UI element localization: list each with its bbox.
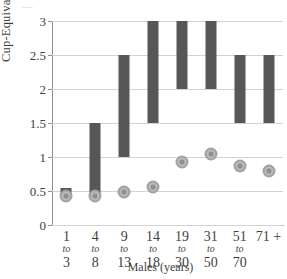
x-tick-connector: to xyxy=(204,244,218,255)
x-tick-connector: to xyxy=(233,244,247,255)
data-point-marker xyxy=(175,155,188,168)
x-tick-start: 31 xyxy=(204,229,218,244)
y-tick-mark xyxy=(48,123,52,124)
y-tick-mark xyxy=(48,157,52,158)
range-bar xyxy=(90,123,101,198)
x-tick-connector: to xyxy=(91,244,99,255)
plot-area: 00.511.522.53 xyxy=(52,21,283,225)
gridline xyxy=(52,123,283,124)
x-tick-start: 71 + xyxy=(256,229,281,244)
x-tick-connector: to xyxy=(146,244,160,255)
x-tick-start: 19 xyxy=(175,229,189,244)
range-bar xyxy=(205,21,216,89)
range-bar xyxy=(119,55,130,157)
gridline xyxy=(52,191,283,192)
data-point-marker xyxy=(233,159,246,172)
x-axis-label: Males (years) xyxy=(0,260,287,275)
data-point-marker xyxy=(118,186,131,199)
range-bar xyxy=(176,21,187,89)
data-point-marker xyxy=(262,164,275,177)
y-tick-mark xyxy=(48,191,52,192)
data-point-marker xyxy=(60,190,73,203)
x-tick-start: 9 xyxy=(117,229,131,244)
x-tick-start: 51 xyxy=(233,229,247,244)
data-point-marker xyxy=(89,190,102,203)
x-axis-label-text: Males (years) xyxy=(94,260,194,274)
y-axis-label: Cup-Equivalents xyxy=(0,0,14,62)
x-tick-connector: to xyxy=(175,244,189,255)
gridline xyxy=(52,21,283,22)
range-bar xyxy=(263,55,274,123)
gridline xyxy=(52,157,283,158)
x-tick-start: 14 xyxy=(146,229,160,244)
range-bar xyxy=(148,21,159,123)
range-bar xyxy=(234,55,245,123)
y-tick-mark xyxy=(48,55,52,56)
gridline xyxy=(52,55,283,56)
data-point-marker xyxy=(147,180,160,193)
data-point-marker xyxy=(204,147,217,160)
x-tick-start: 1 xyxy=(63,229,71,244)
x-tick-connector: to xyxy=(63,244,71,255)
gridline xyxy=(52,89,283,90)
y-tick-mark xyxy=(48,225,52,226)
x-tick-label: 71 + xyxy=(256,229,281,244)
x-tick-start: 4 xyxy=(91,229,99,244)
chart-container: ― Cup-Equivalents 00.511.522.53 1to34to8… xyxy=(0,0,287,279)
gridline xyxy=(52,225,283,226)
y-tick-mark xyxy=(48,89,52,90)
clipped-title-glyph: ― xyxy=(22,0,33,9)
x-tick-connector: to xyxy=(117,244,131,255)
y-tick-mark xyxy=(48,21,52,22)
